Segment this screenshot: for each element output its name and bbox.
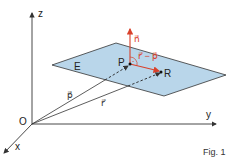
- vector-r-solid: [32, 86, 128, 124]
- vector-p-label: p⃗: [67, 90, 73, 100]
- point-r-label: R: [164, 68, 171, 79]
- vector-r-minus-p-label: r⃗ − p⃗: [138, 51, 158, 61]
- plane-label: E: [74, 61, 81, 72]
- vector-p-solid: [32, 80, 105, 124]
- origin-label: O: [19, 116, 27, 127]
- y-axis-label: y: [206, 109, 211, 120]
- point-p: [129, 63, 132, 66]
- z-axis-label: z: [38, 8, 43, 19]
- vector-r-label: r⃗: [101, 98, 106, 108]
- right-angle-dot: [132, 61, 133, 62]
- x-axis-label: x: [15, 141, 20, 152]
- vector-n-label: n⃗: [134, 34, 140, 44]
- vector-plane-diagram: z y x O E P R p⃗ r⃗ n⃗ r⃗ − p⃗ Fig. 1: [0, 0, 231, 159]
- point-p-label: P: [118, 57, 125, 68]
- figure-caption: Fig. 1: [203, 147, 226, 157]
- point-r: [160, 71, 163, 74]
